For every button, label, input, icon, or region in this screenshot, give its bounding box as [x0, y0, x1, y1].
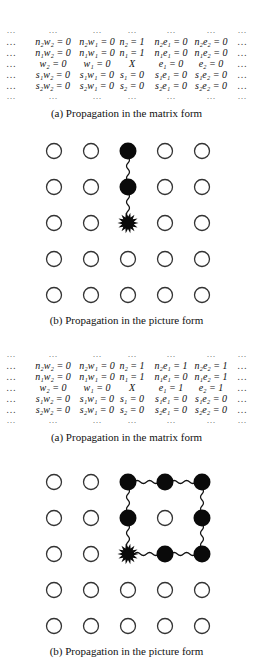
- ellipsis: …: [76, 91, 118, 102]
- ellipsis: …: [2, 360, 20, 371]
- matrix-cell: n₂ = 1: [115, 360, 149, 371]
- empty-node-icon: [121, 583, 136, 598]
- matrix-row: …n₂w₂ = 0n₂w₁ = 0n₂ = 1n₂e₁ = 0n₂e₂ = 0…: [0, 36, 253, 47]
- ellipsis: …: [190, 25, 232, 36]
- matrix-row: …w₂ = 0w₁ = 0Xe₁ = 1e₂ = 1…: [0, 382, 253, 393]
- propagation-grid-2: [0, 464, 253, 644]
- ellipsis: …: [2, 69, 20, 80]
- matrix-row: …s₂w₂ = 0s₂w₁ = 0s₂ = 0s₂e₁ = 0s₂e₂ = 0…: [0, 80, 253, 91]
- matrix-cell: s₂w₂ = 0: [30, 80, 76, 91]
- ellipsis: …: [76, 349, 118, 360]
- matrix-cell: e₁ = 0: [150, 58, 192, 69]
- ellipsis: …: [2, 371, 20, 382]
- filled-node-icon: [120, 143, 137, 160]
- ellipsis: …: [232, 25, 252, 36]
- empty-node-icon: [195, 583, 210, 598]
- empty-node-icon: [47, 216, 62, 231]
- ellipsis: …: [232, 80, 252, 91]
- matrix-cell: n₁e₁ = 0: [150, 47, 192, 58]
- ellipsis: …: [190, 415, 232, 426]
- matrix-cell: n₁e₂ = 0: [190, 47, 232, 58]
- matrix-cell: w₁ = 0: [76, 58, 118, 69]
- grid-caption: (b) Propagation in the picture form: [0, 314, 253, 327]
- ellipsis: …: [190, 349, 232, 360]
- matrix-cell: s₁w₂ = 0: [30, 69, 76, 80]
- ellipsis: …: [30, 349, 76, 360]
- matrix-row: …………………: [0, 349, 253, 360]
- ellipsis: …: [232, 382, 252, 393]
- empty-node-icon: [158, 216, 173, 231]
- empty-node-icon: [158, 144, 173, 159]
- matrix-cell: n₂w₂ = 0: [30, 360, 76, 371]
- empty-node-icon: [84, 180, 99, 195]
- empty-node-icon: [84, 288, 99, 303]
- matrix-caption: (a) Propagation in the matrix form: [0, 107, 253, 120]
- matrix-cell: n₂ = 1: [115, 36, 149, 47]
- propagation-grid-1: [0, 133, 253, 313]
- matrix-cell: s₁w₁ = 0: [76, 69, 118, 80]
- matrix-cell: s₂w₁ = 0: [76, 404, 118, 415]
- matrix-cell: s₁e₁ = 0: [150, 69, 192, 80]
- ellipsis: …: [115, 91, 149, 102]
- empty-node-icon: [47, 288, 62, 303]
- matrix-cell: s₁ = 0: [115, 393, 149, 404]
- empty-node-icon: [158, 252, 173, 267]
- matrix-row: …w₂ = 0w₁ = 0Xe₁ = 0e₂ = 0…: [0, 58, 253, 69]
- matrix-cell: n₂w₂ = 0: [30, 36, 76, 47]
- empty-node-icon: [84, 619, 99, 634]
- filled-node-icon: [157, 546, 174, 563]
- ellipsis: …: [2, 393, 20, 404]
- matrix-cell: n₂e₂ = 1: [190, 360, 232, 371]
- ellipsis: …: [115, 25, 149, 36]
- empty-node-icon: [47, 547, 62, 562]
- empty-node-icon: [84, 216, 99, 231]
- empty-node-icon: [47, 252, 62, 267]
- matrix-cell: n₂w₁ = 0: [76, 36, 118, 47]
- empty-node-icon: [121, 252, 136, 267]
- matrix-cell: s₁w₁ = 0: [76, 393, 118, 404]
- source-burst-icon: [118, 544, 139, 564]
- matrix-cell: n₂e₁ = 0: [150, 36, 192, 47]
- ellipsis: …: [232, 47, 252, 58]
- empty-node-icon: [84, 475, 99, 490]
- empty-node-icon: [84, 252, 99, 267]
- empty-node-icon: [47, 619, 62, 634]
- matrix-cell: s₂e₂ = 0: [190, 80, 232, 91]
- filled-node-icon: [194, 510, 211, 527]
- matrix-cell: e₂ = 1: [190, 382, 232, 393]
- matrix-cell: n₁w₁ = 0: [76, 47, 118, 58]
- empty-node-icon: [158, 511, 173, 526]
- matrix-row: …n₁w₂ = 0n₁w₁ = 0n₁ = 1n₁e₁ = 0n₁e₂ = 0…: [0, 47, 253, 58]
- filled-node-icon: [120, 510, 137, 527]
- empty-node-icon: [195, 144, 210, 159]
- matrix-row: …s₂w₂ = 0s₂w₁ = 0s₂ = 0s₂e₁ = 0s₂e₂ = 0…: [0, 404, 253, 415]
- matrix-cell: X: [115, 382, 149, 393]
- ellipsis: …: [30, 91, 76, 102]
- empty-node-icon: [84, 583, 99, 598]
- empty-node-icon: [195, 252, 210, 267]
- matrix-cell: w₂ = 0: [30, 58, 76, 69]
- empty-node-icon: [158, 583, 173, 598]
- matrix-cell: s₂w₂ = 0: [30, 404, 76, 415]
- ellipsis: …: [232, 36, 252, 47]
- matrix-cell: s₂e₁ = 0: [150, 404, 192, 415]
- empty-node-icon: [121, 288, 136, 303]
- matrix-caption: (a) Propagation in the matrix form: [0, 431, 253, 444]
- empty-node-icon: [84, 144, 99, 159]
- ellipsis: …: [2, 349, 20, 360]
- ellipsis: …: [232, 371, 252, 382]
- matrix-cell: X: [115, 58, 149, 69]
- ellipsis: …: [30, 25, 76, 36]
- empty-node-icon: [47, 475, 62, 490]
- ellipsis: …: [2, 47, 20, 58]
- ellipsis: …: [76, 415, 118, 426]
- matrix-cell: n₁e₂ = 1: [190, 371, 232, 382]
- matrix-row: …s₁w₂ = 0s₁w₁ = 0s₁ = 0s₁e₁ = 0s₁e₂ = 0…: [0, 69, 253, 80]
- empty-node-icon: [47, 180, 62, 195]
- ellipsis: …: [2, 415, 20, 426]
- empty-node-icon: [47, 511, 62, 526]
- ellipsis: …: [232, 415, 252, 426]
- ellipsis: …: [2, 80, 20, 91]
- matrix-cell: e₂ = 0: [190, 58, 232, 69]
- ellipsis: …: [232, 91, 252, 102]
